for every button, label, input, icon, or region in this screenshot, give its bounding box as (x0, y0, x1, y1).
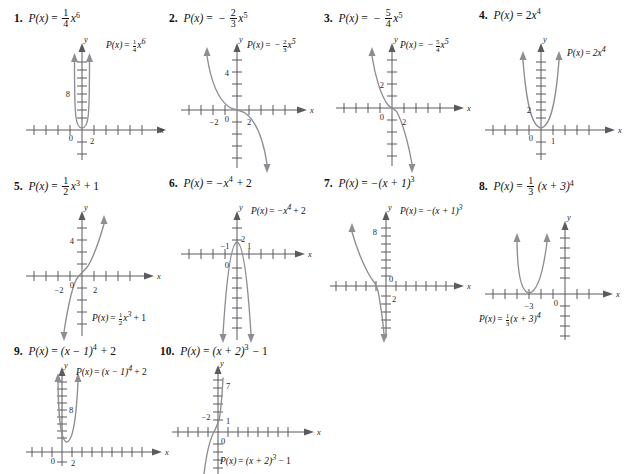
problem-1-graph: x y 0 8 2 (22, 30, 170, 170)
problem-6-heading: 6. P(x)=−x4+ 2 (169, 176, 252, 189)
problem-5-equals: = (48, 180, 61, 192)
origin-label: 0 (225, 114, 229, 124)
x-tick-label: 1 (247, 241, 251, 251)
problem-7-svg: x y 0 8 2 (326, 198, 478, 346)
curve-arrow-right (556, 51, 563, 60)
origin-label: 0 (69, 133, 73, 143)
problem-5-curve-label: P(x)=12x3+ 1 (92, 311, 148, 327)
y-tick-label: 8 (373, 227, 377, 237)
problem-8-coefficient-fraction: 13 (527, 176, 534, 197)
problem-8-heading: 8. P(x)=13(x + 3)4 (479, 176, 574, 197)
problem-9-body: (x − 1) (61, 345, 93, 357)
problem-10-body: (x + 2) (213, 345, 245, 357)
problem-8-number: 8. (479, 180, 491, 192)
y-axis-arrow (383, 211, 390, 220)
x-axis-arrow (295, 251, 305, 258)
problem-9-constant: + 2 (97, 345, 116, 357)
problem-6-constant: + 2 (233, 177, 252, 189)
problem-3-curve-label: P(x)=−54x5 (400, 38, 449, 54)
curve-arrow-start (204, 47, 211, 56)
problem-2-equals: = (203, 12, 216, 24)
problem-2-heading: 2. P(x)=−23x5 (169, 8, 247, 29)
problem-10-heading: 10. P(x)=(x + 2)3− 1 (160, 344, 268, 357)
problem-1-heading: 1. P(x)=14x6 (14, 8, 80, 29)
y-axis-label: y (393, 34, 398, 44)
problem-6: 6. P(x)=−x4+ 2 (169, 176, 324, 336)
problem-4-exponent: 4 (537, 7, 541, 16)
x-tick-label: 2 (71, 458, 75, 468)
problem-1-equals: = (48, 12, 61, 24)
y-axis-arrow (79, 43, 86, 52)
problem-3-exponent: 5 (398, 11, 402, 20)
x-axis-label: x (307, 249, 312, 259)
curve-arrow-end (409, 164, 416, 173)
problem-3-number: 3. (324, 12, 336, 24)
problem-10-fx: P(x) (180, 345, 200, 357)
origin-label: 0 (529, 133, 533, 143)
curve-arrow-end (101, 215, 108, 224)
y-tick-label: 4 (70, 236, 75, 246)
y-axis-arrow (562, 221, 569, 230)
problem-4-curve-label: P(x)=2x4 (567, 46, 606, 59)
problem-7-fx: P(x) (339, 177, 359, 189)
curve-arrow-end (264, 164, 271, 173)
x-axis-arrow (603, 291, 613, 298)
y-axis-label: y (219, 362, 224, 368)
y-tick-label: 8 (66, 89, 70, 99)
problem-6-curve-label: P(x)=−x4+ 2 (251, 204, 308, 217)
problem-5-constant: + 1 (80, 180, 99, 192)
problem-9-curve-label: P(x)=(x − 1)4+ 2 (76, 365, 149, 378)
problem-10-number: 10. (160, 345, 177, 357)
curve-arrow-right (86, 53, 93, 62)
problem-4-equals: = (513, 9, 526, 21)
y-axis-label: y (83, 202, 88, 212)
x-axis-arrow (454, 105, 464, 112)
curve-arrow-start (61, 332, 68, 341)
x-axis-label: x (617, 125, 622, 135)
problem-3-coefficient-fraction: 54 (385, 8, 392, 29)
x-axis-arrow (304, 429, 314, 436)
worksheet-page: 1. P(x)=14x6 (0, 0, 625, 474)
curve-arrow-start (349, 223, 356, 232)
problem-9: 9. P(x)=(x − 1)4+ 2 (14, 344, 169, 474)
x-tick-label: 2 (90, 136, 94, 146)
curve (352, 232, 384, 334)
problem-4: 4. P(x)=2x4 (479, 8, 625, 168)
y-axis-label: y (238, 34, 243, 44)
curve-arrow-end (381, 334, 388, 343)
problem-8: 8. P(x)=13(x + 3)4 (479, 176, 625, 336)
y-axis-label: y (566, 212, 571, 222)
x-tick-label-negative: −1 (220, 241, 229, 251)
problem-7-number: 7. (324, 177, 336, 189)
problem-1-curve-label: P(x)=14x6 (106, 38, 145, 54)
x-tick-label: 2 (392, 294, 396, 304)
origin-label: 0 (221, 436, 225, 446)
curve-arrow-right (248, 334, 255, 343)
problem-2-exponent: 5 (243, 11, 247, 20)
problem-8-exponent: 4 (570, 179, 574, 188)
problem-10-constant: − 1 (249, 345, 268, 357)
problem-2: 2. P(x)=−23x5 (169, 8, 324, 168)
problem-3-equals: = (358, 12, 371, 24)
problem-3: 3. P(x)=−54x5 (324, 8, 479, 168)
x-tick-label-negative: −3 (524, 301, 533, 311)
problem-7-equals: = (358, 177, 371, 189)
problem-5-number: 5. (14, 180, 26, 192)
x-axis-label: x (615, 289, 620, 299)
origin-label: 0 (51, 456, 55, 466)
y-axis-label: y (387, 202, 392, 212)
problem-9-number: 9. (14, 345, 26, 357)
x-tick-label-negative: −2 (209, 117, 218, 127)
problem-1-coefficient-fraction: 14 (62, 8, 69, 29)
origin-label: 0 (380, 112, 384, 122)
x-axis-arrow (454, 283, 464, 290)
problem-1-exponent: 6 (76, 11, 80, 20)
problem-1: 1. P(x)=14x6 (14, 8, 169, 168)
problem-6-fx: P(x) (184, 177, 204, 189)
x-axis-label: x (159, 125, 164, 135)
problem-2-fx: P(x) (184, 12, 204, 24)
x-axis-label: x (309, 105, 314, 115)
problem-7-exponent: 3 (411, 175, 415, 184)
problem-2-sign: − (216, 12, 229, 24)
y-axis-arrow (538, 43, 545, 52)
